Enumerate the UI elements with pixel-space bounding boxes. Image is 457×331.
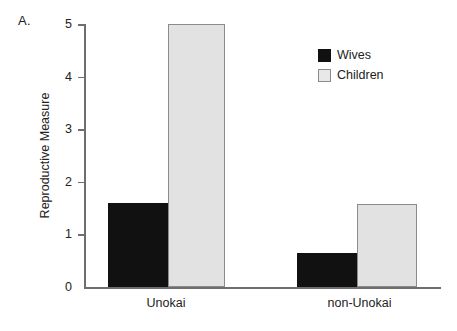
panel-label: A. (18, 13, 31, 28)
legend: Wives Children (318, 46, 384, 86)
bar-unokai-wives (108, 203, 168, 287)
legend-item-children: Children (318, 66, 384, 84)
y-axis-line (84, 24, 86, 288)
bar-non-unokai-wives (297, 253, 357, 287)
legend-item-wives: Wives (318, 46, 384, 64)
x-tick-label-unokai: Unokai (126, 296, 206, 310)
y-tick-mark-2 (78, 182, 85, 184)
legend-label-wives: Wives (337, 48, 371, 62)
legend-label-children: Children (337, 68, 384, 82)
y-tick-mark-5 (78, 24, 85, 26)
y-tick-mark-4 (78, 77, 85, 79)
y-tick-label-4: 4 (52, 71, 72, 84)
bar-unokai-children (168, 24, 225, 287)
y-tick-label-3: 3 (52, 123, 72, 136)
x-axis-line (84, 287, 441, 289)
y-tick-label-5: 5 (52, 18, 72, 31)
legend-swatch-children-icon (318, 69, 331, 82)
y-axis-title: Reproductive Measure (36, 24, 54, 287)
bar-chart-figure: A. Reproductive Measure 5 4 3 2 1 0 Unok… (0, 0, 457, 331)
y-tick-mark-3 (78, 129, 85, 131)
y-tick-label-1: 1 (52, 228, 72, 241)
bar-non-unokai-children (357, 204, 417, 287)
legend-swatch-wives-icon (318, 49, 331, 62)
y-tick-label-0: 0 (52, 281, 72, 294)
y-tick-label-2: 2 (52, 176, 72, 189)
x-tick-label-non-unokai: non-Unokai (312, 296, 407, 310)
y-tick-mark-1 (78, 234, 85, 236)
